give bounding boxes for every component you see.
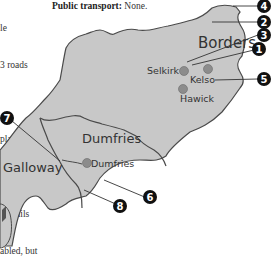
marker-1: 1 [252, 42, 266, 56]
region-label-dumfries: Dumfries [82, 131, 141, 146]
marker-6: 6 [143, 190, 157, 204]
town-label-dumfries: Dumfries [91, 158, 134, 169]
marker-number: 5 [261, 74, 268, 85]
town-label-selkirk: Selkirk [147, 65, 180, 76]
region-label-borders: Borders [198, 34, 256, 52]
marker-8: 8 [113, 199, 127, 213]
town-label-kelso: Kelso [190, 74, 215, 85]
town-dot-selkirk [180, 67, 189, 76]
marker-number: 8 [117, 201, 124, 212]
marker-number: 1 [256, 44, 263, 55]
marker-4: 4 [257, 0, 271, 13]
region-label-galloway: Galloway [3, 160, 63, 175]
marker-7: 7 [0, 111, 14, 125]
marker-number: 2 [261, 17, 268, 28]
marker-3: 3 [257, 28, 271, 42]
marker-number: 6 [147, 192, 154, 203]
marker-2: 2 [257, 15, 271, 29]
marker-5: 5 [257, 72, 271, 86]
town-dot-kelso [204, 65, 213, 74]
marker-number: 3 [261, 30, 268, 41]
marker-number: 4 [261, 1, 268, 12]
marker-number: 7 [4, 113, 11, 124]
town-label-hawick: Hawick [180, 93, 215, 104]
